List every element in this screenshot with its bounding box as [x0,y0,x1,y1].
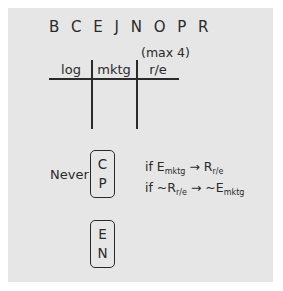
table-header-rule [49,78,179,80]
column-divider-2 [136,60,138,129]
letter-p: P [98,174,106,193]
entity-letters: B C E J N O P R [49,18,212,36]
never-together-box: C P [90,150,115,198]
together-box: E N [90,220,115,268]
arrow-icon: → [187,180,205,195]
never-label: Never [50,167,89,182]
arrow-icon: → [185,159,203,174]
column-header-mktg: mktg [92,62,136,77]
column-divider-1 [91,60,93,129]
rule-2: if ~Rr/e → ~Emktg [145,180,244,197]
letter-n: N [97,244,107,263]
letter-c: C [98,155,107,174]
max-note: (max 4) [141,45,190,60]
rule-1: if Emktg → Rr/e [145,159,223,176]
column-header-log: log [52,62,90,77]
column-header-re: r/e [138,62,178,77]
letter-e: E [98,225,107,244]
